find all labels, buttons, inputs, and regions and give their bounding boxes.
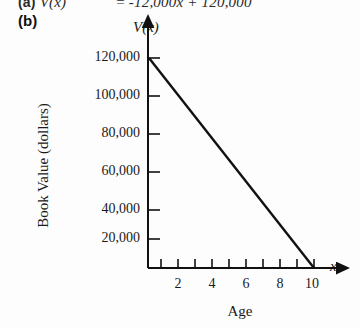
x-tick-marks (161, 259, 314, 268)
depreciation-line (149, 58, 314, 268)
figure-panel-b: (a) V(x) = -12,000x + 120,000 (b) V(x) x… (0, 0, 360, 329)
y-tick-marks (148, 58, 160, 239)
plot-canvas (0, 0, 360, 329)
